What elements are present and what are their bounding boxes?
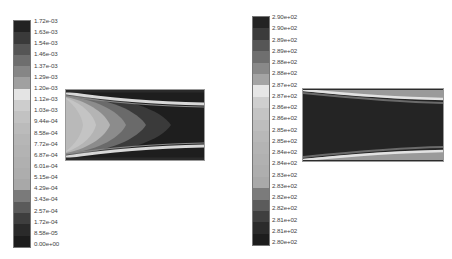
right-contour-panel: 2.90e+022.90e+022.89e+022.89e+022.88e+02… xyxy=(226,0,452,259)
colorbar-tick-label: 8.58e-04 xyxy=(34,129,58,136)
colorbar-tick-label: 6.01e-04 xyxy=(34,162,58,169)
colorbar-band xyxy=(14,213,30,224)
colorbar-tick-label: 2.83e+02 xyxy=(272,171,297,178)
colorbar-tick-label: 2.83e+02 xyxy=(272,182,297,189)
colorbar-tick-label: 6.87e-04 xyxy=(34,151,58,158)
colorbar-tick-label: 1.37e-03 xyxy=(34,62,58,69)
colorbar-band xyxy=(253,40,269,51)
colorbar-tick-label: 1.46e-03 xyxy=(34,50,58,57)
colorbar-band xyxy=(14,44,30,55)
colorbar-band xyxy=(253,51,269,62)
colorbar-tick-label: 1.29e-03 xyxy=(34,73,58,80)
colorbar-band xyxy=(253,154,269,165)
left-contour-plot xyxy=(65,89,205,161)
colorbar-band xyxy=(14,89,30,100)
colorbar-band xyxy=(253,188,269,199)
colorbar-tick-label: 3.43e-04 xyxy=(34,195,58,202)
colorbar-tick-label: 7.72e-04 xyxy=(34,140,58,147)
colorbar-band xyxy=(253,97,269,108)
colorbar-tick-label: 2.81e+02 xyxy=(272,216,297,223)
colorbar-band xyxy=(14,55,30,66)
colorbar-tick-label: 1.63e-03 xyxy=(34,28,58,35)
colorbar-tick-label: 2.86e+02 xyxy=(272,103,297,110)
colorbar-tick-label: 2.81e+02 xyxy=(272,227,297,234)
colorbar-band xyxy=(253,28,269,39)
colorbar-tick-label: 2.84e+02 xyxy=(272,148,297,155)
colorbar-band xyxy=(253,17,269,28)
colorbar-band xyxy=(253,74,269,85)
colorbar-tick-label: 2.88e+02 xyxy=(272,69,297,76)
colorbar-band xyxy=(14,202,30,213)
colorbar-tick-label: 2.88e+02 xyxy=(272,58,297,65)
colorbar-tick-label: 4.29e-04 xyxy=(34,184,58,191)
colorbar-tick-label: 2.87e+02 xyxy=(272,81,297,88)
colorbar-tick-label: 2.90e+02 xyxy=(272,13,297,20)
colorbar-band xyxy=(14,145,30,156)
colorbar-band xyxy=(14,32,30,43)
colorbar-tick-label: 8.58e-05 xyxy=(34,229,58,236)
colorbar-tick-label: 2.89e+02 xyxy=(272,36,297,43)
colorbar-band xyxy=(14,21,30,32)
colorbar-band xyxy=(253,165,269,176)
colorbar-band xyxy=(253,120,269,131)
colorbar-tick-label: 2.87e+02 xyxy=(272,92,297,99)
colorbar-tick-label: 2.82e+02 xyxy=(272,204,297,211)
colorbar-band xyxy=(14,66,30,77)
colorbar-band xyxy=(14,190,30,201)
colorbar-tick-label: 2.90e+02 xyxy=(272,24,297,31)
colorbar-band xyxy=(253,108,269,119)
colorbar-tick-label: 0.00e+00 xyxy=(34,240,59,247)
colorbar-tick-label: 2.82e+02 xyxy=(272,193,297,200)
colorbar-tick-label: 1.54e-03 xyxy=(34,39,58,46)
colorbar-band xyxy=(14,168,30,179)
colorbar-band xyxy=(253,222,269,233)
colorbar-tick-label: 1.72e-03 xyxy=(34,17,58,24)
colorbar-band xyxy=(253,131,269,142)
colorbar-tick-label: 2.89e+02 xyxy=(272,47,297,54)
colorbar-tick-label: 9.44e-04 xyxy=(34,117,58,124)
colorbar-band xyxy=(14,111,30,122)
colorbar-band xyxy=(14,134,30,145)
colorbar-band xyxy=(253,142,269,153)
colorbar-band xyxy=(14,77,30,88)
colorbar-band xyxy=(14,179,30,190)
colorbar-tick-label: 2.85e+02 xyxy=(272,137,297,144)
colorbar-tick-label: 5.15e-04 xyxy=(34,173,58,180)
colorbar-tick-label: 1.12e-03 xyxy=(34,95,58,102)
colorbar-tick-label: 2.84e+02 xyxy=(272,159,297,166)
colorbar-tick-label: 2.80e+02 xyxy=(272,238,297,245)
colorbar-tick-label: 1.03e-03 xyxy=(34,106,58,113)
colorbar-band xyxy=(253,234,269,245)
colorbar-band xyxy=(253,85,269,96)
colorbar-tick-label: 1.72e-04 xyxy=(34,218,58,225)
colorbar-band xyxy=(14,236,30,247)
colorbar-tick-label: 2.86e+02 xyxy=(272,114,297,121)
left-colorbar xyxy=(13,20,31,248)
colorbar-tick-label: 2.57e-04 xyxy=(34,207,58,214)
colorbar-band xyxy=(253,63,269,74)
colorbar-band xyxy=(253,211,269,222)
colorbar-tick-label: 1.20e-03 xyxy=(34,84,58,91)
colorbar-band xyxy=(253,200,269,211)
colorbar-band xyxy=(14,224,30,235)
colorbar-band xyxy=(14,157,30,168)
right-contour-plot xyxy=(302,88,444,162)
colorbar-band xyxy=(14,123,30,134)
right-colorbar xyxy=(252,16,270,246)
colorbar-band xyxy=(14,100,30,111)
colorbar-band xyxy=(253,177,269,188)
colorbar-tick-label: 2.85e+02 xyxy=(272,126,297,133)
left-contour-panel: 1.72e-031.63e-031.54e-031.46e-031.37e-03… xyxy=(0,0,226,259)
